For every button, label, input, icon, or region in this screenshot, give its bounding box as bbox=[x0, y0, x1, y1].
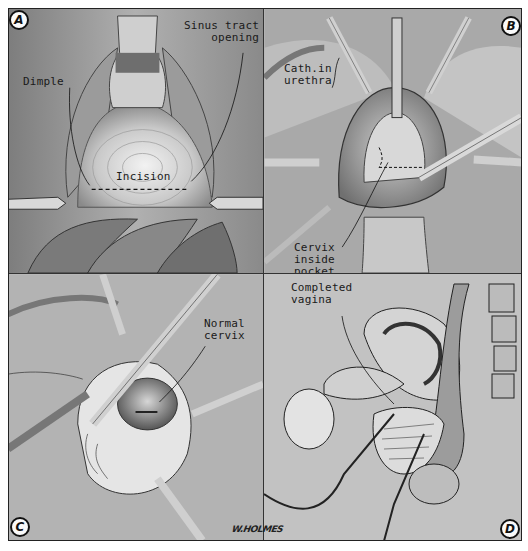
panel-a: A Dimple Sinus tract opening Incision bbox=[8, 8, 264, 274]
panel-a-badge: A bbox=[9, 10, 29, 30]
panel-c-illustration bbox=[8, 274, 263, 541]
label-sinus-tract-opening: Sinus tract opening bbox=[184, 20, 259, 44]
panel-c-badge: C bbox=[10, 517, 30, 537]
label-normal-cervix: Normal cervix bbox=[204, 318, 245, 342]
label-cervix-inside-pocket: Cervix inside pocket bbox=[294, 242, 335, 274]
artist-signature: W.HOLMES bbox=[231, 524, 284, 534]
panel-d-illustration bbox=[264, 274, 522, 541]
panel-d-badge: D bbox=[500, 519, 520, 539]
label-dimple: Dimple bbox=[23, 76, 64, 88]
label-incision: Incision bbox=[116, 171, 171, 183]
panel-b-illustration bbox=[264, 8, 522, 273]
label-completed-vagina: Completed vagina bbox=[291, 282, 352, 306]
label-cath-in-urethra: Cath.in urethra bbox=[284, 63, 332, 87]
panel-b-badge: B bbox=[501, 16, 521, 36]
panel-d: D Completed vagina bbox=[264, 274, 522, 541]
panel-a-illustration bbox=[8, 8, 263, 273]
panel-b: B Cath.in urethra Cervix inside pocket bbox=[264, 8, 522, 274]
panel-c: C Normal cervix bbox=[8, 274, 264, 541]
